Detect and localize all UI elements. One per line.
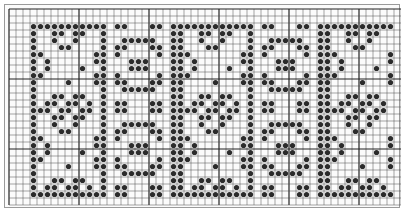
knitting-chart (4, 4, 400, 208)
pattern-grid (5, 5, 401, 209)
